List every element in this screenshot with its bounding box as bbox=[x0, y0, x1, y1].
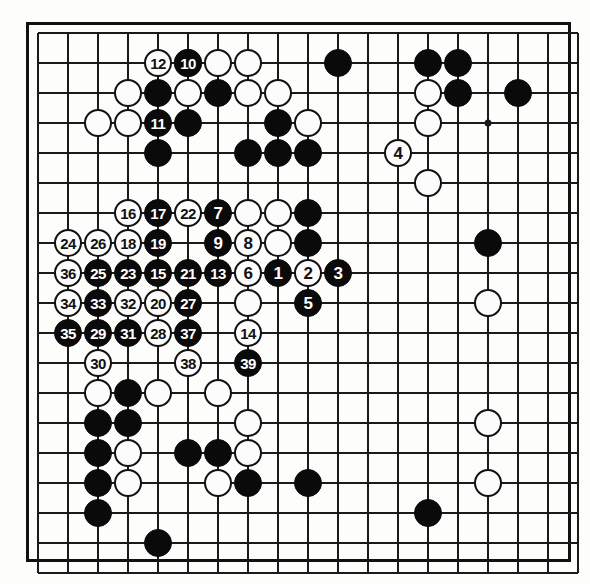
numbered-stone-white: 36 bbox=[54, 259, 82, 287]
stone-black bbox=[294, 199, 322, 227]
move-number: 12 bbox=[150, 56, 166, 71]
move-number: 28 bbox=[150, 326, 166, 341]
numbered-stone-white: 38 bbox=[174, 349, 202, 377]
stone-black bbox=[414, 49, 442, 77]
stone-white bbox=[234, 409, 262, 437]
stone-white bbox=[114, 469, 142, 497]
move-number: 9 bbox=[214, 235, 223, 252]
numbered-stone-white: 14 bbox=[234, 319, 262, 347]
move-number: 39 bbox=[240, 356, 256, 371]
move-number: 2 bbox=[304, 265, 313, 282]
numbered-stone-black: 19 bbox=[144, 229, 172, 257]
stone-black bbox=[84, 499, 112, 527]
numbered-stone-black: 7 bbox=[204, 199, 232, 227]
numbered-stone-white: 26 bbox=[84, 229, 112, 257]
numbered-stone-white: 18 bbox=[114, 229, 142, 257]
move-number: 21 bbox=[180, 266, 196, 281]
numbered-stone-white: 32 bbox=[114, 289, 142, 317]
stone-white bbox=[294, 109, 322, 137]
numbered-stone-black: 13 bbox=[204, 259, 232, 287]
stone-white bbox=[114, 439, 142, 467]
numbered-stone-black: 15 bbox=[144, 259, 172, 287]
stone-black bbox=[144, 529, 172, 557]
move-number: 8 bbox=[244, 235, 253, 252]
move-number: 14 bbox=[240, 326, 256, 341]
numbered-stone-black: 25 bbox=[84, 259, 112, 287]
stone-black bbox=[234, 469, 262, 497]
stone-white bbox=[114, 79, 142, 107]
move-number: 38 bbox=[180, 356, 196, 371]
numbered-stone-black: 31 bbox=[114, 319, 142, 347]
move-number: 19 bbox=[150, 236, 166, 251]
move-number: 24 bbox=[60, 236, 76, 251]
move-number: 36 bbox=[60, 266, 76, 281]
stone-black bbox=[444, 49, 472, 77]
stone-white bbox=[204, 49, 232, 77]
stone-white bbox=[234, 289, 262, 317]
stone-white bbox=[474, 289, 502, 317]
numbered-stone-white: 12 bbox=[144, 49, 172, 77]
stone-layer: 1234567891011121314151617181920212223242… bbox=[0, 0, 590, 584]
move-number: 6 bbox=[244, 265, 253, 282]
numbered-stone-black: 3 bbox=[324, 259, 352, 287]
move-number: 18 bbox=[120, 236, 136, 251]
stone-white bbox=[234, 79, 262, 107]
move-number: 10 bbox=[180, 56, 196, 71]
move-number: 15 bbox=[150, 266, 166, 281]
numbered-stone-black: 35 bbox=[54, 319, 82, 347]
numbered-stone-white: 22 bbox=[174, 199, 202, 227]
stone-white bbox=[414, 169, 442, 197]
move-number: 37 bbox=[180, 326, 196, 341]
move-number: 29 bbox=[90, 326, 106, 341]
stone-white bbox=[234, 199, 262, 227]
stone-black bbox=[204, 79, 232, 107]
stone-white bbox=[474, 409, 502, 437]
numbered-stone-black: 5 bbox=[294, 289, 322, 317]
numbered-stone-black: 10 bbox=[174, 49, 202, 77]
stone-black bbox=[264, 109, 292, 137]
move-number: 1 bbox=[274, 265, 283, 282]
numbered-stone-black: 29 bbox=[84, 319, 112, 347]
move-number: 35 bbox=[60, 326, 76, 341]
stone-black bbox=[144, 139, 172, 167]
go-diagram: 1234567891011121314151617181920212223242… bbox=[0, 0, 590, 584]
move-number: 31 bbox=[120, 326, 136, 341]
stone-white bbox=[114, 109, 142, 137]
numbered-stone-white: 20 bbox=[144, 289, 172, 317]
stone-black bbox=[294, 469, 322, 497]
stone-white bbox=[84, 379, 112, 407]
stone-white bbox=[174, 79, 202, 107]
numbered-stone-black: 9 bbox=[204, 229, 232, 257]
numbered-stone-black: 33 bbox=[84, 289, 112, 317]
move-number: 22 bbox=[180, 206, 196, 221]
numbered-stone-white: 34 bbox=[54, 289, 82, 317]
stone-black bbox=[144, 79, 172, 107]
stone-black bbox=[264, 139, 292, 167]
move-number: 17 bbox=[150, 206, 166, 221]
stone-black bbox=[414, 499, 442, 527]
move-number: 33 bbox=[90, 296, 106, 311]
stone-black bbox=[114, 379, 142, 407]
stone-black bbox=[114, 409, 142, 437]
move-number: 32 bbox=[120, 296, 136, 311]
stone-black bbox=[174, 109, 202, 137]
stone-white bbox=[234, 439, 262, 467]
stone-white bbox=[234, 49, 262, 77]
stone-black bbox=[84, 409, 112, 437]
stone-white bbox=[264, 229, 292, 257]
stone-white bbox=[204, 379, 232, 407]
numbered-stone-black: 23 bbox=[114, 259, 142, 287]
numbered-stone-black: 39 bbox=[234, 349, 262, 377]
numbered-stone-white: 30 bbox=[84, 349, 112, 377]
stone-white bbox=[474, 469, 502, 497]
numbered-stone-white: 16 bbox=[114, 199, 142, 227]
numbered-stone-white: 28 bbox=[144, 319, 172, 347]
numbered-stone-black: 37 bbox=[174, 319, 202, 347]
numbered-stone-white: 4 bbox=[384, 139, 412, 167]
move-number: 11 bbox=[151, 116, 166, 131]
stone-white bbox=[414, 79, 442, 107]
stone-black bbox=[324, 49, 352, 77]
numbered-stone-black: 21 bbox=[174, 259, 202, 287]
stone-white bbox=[264, 79, 292, 107]
numbered-stone-white: 2 bbox=[294, 259, 322, 287]
